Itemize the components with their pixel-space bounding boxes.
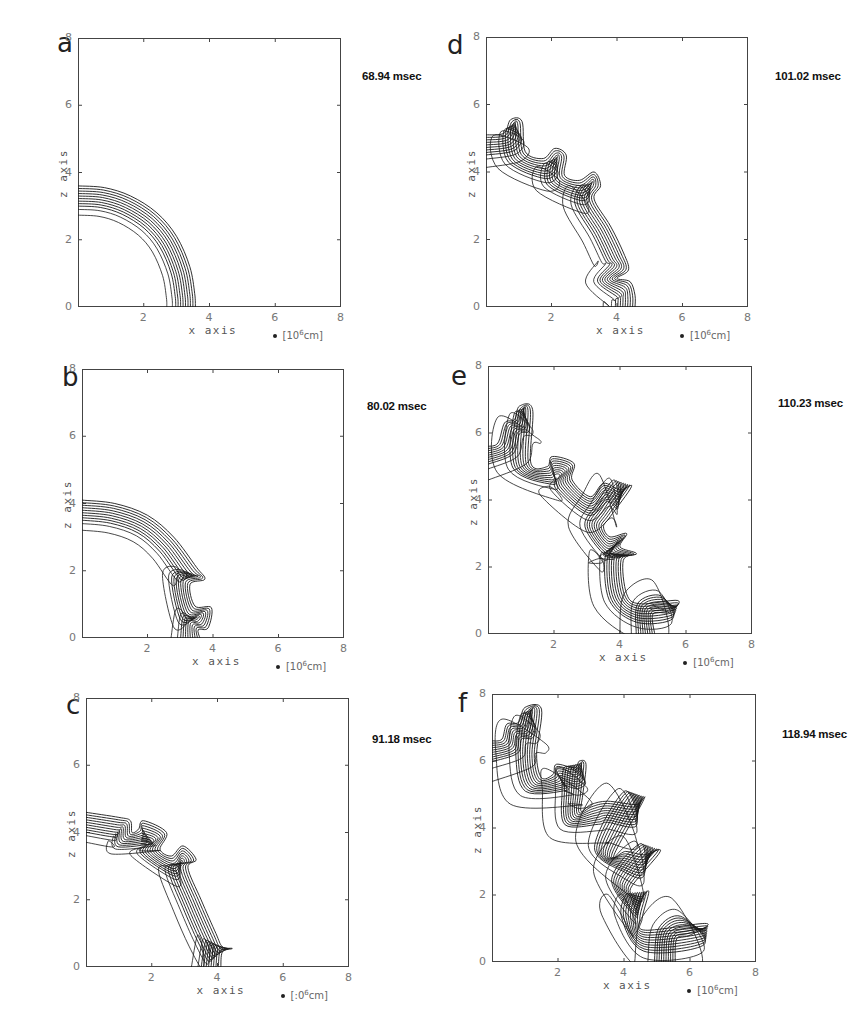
unit-post: cm] xyxy=(711,330,730,341)
timestamp-label: 91.18 msec xyxy=(372,733,431,745)
x-tick-label: 8 xyxy=(744,312,751,323)
contour-line xyxy=(488,407,677,634)
x-tick-label: 8 xyxy=(340,643,347,654)
x-tick-label: 6 xyxy=(682,639,689,650)
z-tick-label: 2 xyxy=(475,561,482,572)
unit-pre: [10 xyxy=(286,661,303,672)
contour-plot xyxy=(78,38,341,307)
x-tick-label: 8 xyxy=(337,312,344,323)
z-tick-label: 8 xyxy=(479,688,486,699)
z-tick-label: 4 xyxy=(73,827,80,838)
unit-label: [106cm] xyxy=(680,329,730,341)
z-tick-label: 0 xyxy=(479,956,486,967)
contour-line xyxy=(78,191,190,307)
contour-line xyxy=(78,215,167,307)
contour-line xyxy=(486,135,609,307)
x-tick-label: 6 xyxy=(275,643,282,654)
z-tick-label: 0 xyxy=(475,628,482,639)
x-tick-label: 8 xyxy=(748,639,755,650)
contour-plot xyxy=(488,366,752,634)
z-tick-label: 2 xyxy=(69,565,76,576)
unit-pre: [10 xyxy=(283,330,300,341)
contour-line xyxy=(82,520,195,638)
z-tick-label: 6 xyxy=(473,99,480,110)
contour-line xyxy=(492,711,706,962)
x-tick-label: 2 xyxy=(148,972,155,983)
x-tick-label: 4 xyxy=(209,643,216,654)
x-tick-label: 2 xyxy=(140,312,147,323)
z-tick-label: 0 xyxy=(473,301,480,312)
x-tick-label: 6 xyxy=(686,967,693,978)
unit-pre: [:0 xyxy=(291,990,305,1001)
bullet-icon xyxy=(687,989,691,993)
bullet-icon xyxy=(273,334,277,338)
contour-line xyxy=(492,719,703,976)
contour-line xyxy=(78,189,193,308)
contour-line xyxy=(488,410,674,634)
z-tick-label: 8 xyxy=(473,31,480,42)
contour-line xyxy=(488,405,678,634)
z-tick-label: 8 xyxy=(73,692,80,703)
x-axis-title: x axis xyxy=(188,324,237,337)
x-axis-title: x axis xyxy=(196,984,245,997)
panel-letter: e xyxy=(451,363,467,389)
unit-label: [106cm] xyxy=(687,984,737,996)
z-tick-label: 4 xyxy=(65,167,72,178)
contour-line xyxy=(82,530,187,638)
unit-post: cm] xyxy=(718,985,737,996)
z-tick-label: 0 xyxy=(73,961,80,972)
x-axis-title: x axis xyxy=(596,324,645,337)
unit-post: cm] xyxy=(307,661,326,672)
contour-line xyxy=(78,199,183,308)
contour-line xyxy=(78,194,188,308)
x-tick-label: 4 xyxy=(620,967,627,978)
x-tick-label: 4 xyxy=(214,972,221,983)
contour-group xyxy=(82,500,212,638)
unit-pre: [10 xyxy=(690,330,707,341)
timestamp-label: 80.02 msec xyxy=(367,400,426,412)
x-axis-title: x axis xyxy=(603,979,652,992)
x-tick-label: 4 xyxy=(206,312,213,323)
unit-post: cm] xyxy=(714,657,733,668)
x-tick-label: 8 xyxy=(752,967,759,978)
contour-line xyxy=(82,510,204,638)
z-tick-label: 0 xyxy=(69,632,76,643)
z-tick-label: 8 xyxy=(475,360,482,371)
z-tick-label: 2 xyxy=(479,889,486,900)
contour-line xyxy=(486,129,618,307)
x-tick-label: 6 xyxy=(271,312,278,323)
unit-label: [:06cm] xyxy=(281,989,328,1001)
timestamp-label: 101.02 msec xyxy=(775,70,841,82)
z-tick-label: 4 xyxy=(479,822,486,833)
x-tick-label: 8 xyxy=(345,972,352,983)
z-tick-label: 0 xyxy=(65,301,72,312)
contour-line xyxy=(488,409,676,634)
timestamp-label: 68.94 msec xyxy=(362,70,421,82)
bullet-icon xyxy=(281,994,285,998)
z-tick-label: 8 xyxy=(69,363,76,374)
bullet-icon xyxy=(680,334,684,338)
contour-group xyxy=(78,186,195,307)
unit-label: [106cm] xyxy=(273,329,323,341)
z-tick-label: 4 xyxy=(473,166,480,177)
contour-line xyxy=(78,196,186,307)
contour-plot xyxy=(492,694,756,962)
unit-label: [106cm] xyxy=(683,656,733,668)
contour-line xyxy=(488,411,674,634)
contour-line xyxy=(488,408,676,634)
x-tick-label: 6 xyxy=(679,312,686,323)
unit-pre: [10 xyxy=(693,657,710,668)
timestamp-label: 118.94 msec xyxy=(782,728,847,740)
z-tick-label: 6 xyxy=(69,430,76,441)
contour-group xyxy=(488,404,679,643)
x-axis-title: x axis xyxy=(599,651,648,664)
x-tick-label: 6 xyxy=(279,972,286,983)
contour-plot xyxy=(86,698,349,967)
x-tick-label: 4 xyxy=(613,312,620,323)
contour-line xyxy=(486,128,620,307)
z-tick-label: 6 xyxy=(73,759,80,770)
x-tick-label: 2 xyxy=(554,967,561,978)
z-tick-label: 2 xyxy=(473,234,480,245)
z-tick-label: 4 xyxy=(69,498,76,509)
contour-group xyxy=(492,704,708,975)
